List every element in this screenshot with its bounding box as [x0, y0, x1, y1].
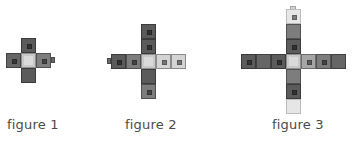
- square-top-2: [286, 24, 301, 39]
- square-right-2: [316, 54, 331, 69]
- square-top-1: [286, 39, 301, 54]
- square-bottom-3: [286, 99, 301, 114]
- square-center: [286, 54, 301, 69]
- square-bottom-2: [286, 84, 301, 99]
- square-left-3: [241, 54, 256, 69]
- square-right-3: [331, 54, 346, 69]
- square-bottom-1: [286, 69, 301, 84]
- square-right-1: [301, 54, 316, 69]
- caption-figure-3: figure 3: [272, 117, 324, 132]
- caption-figure-2: figure 2: [125, 117, 177, 132]
- square-left-2: [256, 54, 271, 69]
- square-left-1: [271, 54, 286, 69]
- square-top-3: [286, 9, 301, 24]
- caption-figure-1: figure 1: [7, 117, 59, 132]
